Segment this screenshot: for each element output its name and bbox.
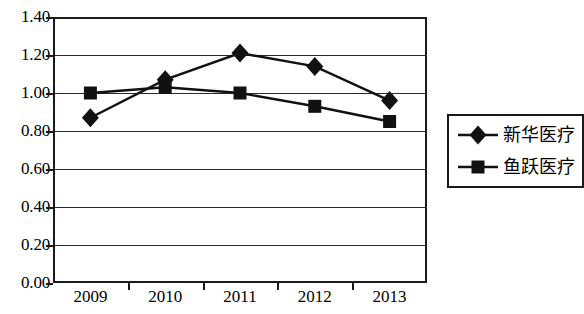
data-point-square <box>472 161 485 174</box>
y-tick-label: 1.40 <box>2 8 50 25</box>
data-point-square <box>383 115 396 128</box>
legend-item-1: 新华医疗 <box>457 120 575 150</box>
x-tick-label: 2012 <box>277 286 352 308</box>
data-point-diamond <box>381 91 398 110</box>
line-chart-figure: 0.000.200.400.600.801.001.201.40 2009201… <box>0 0 584 314</box>
x-tick-label: 2013 <box>352 286 427 308</box>
legend-label: 鱼跃医疗 <box>499 157 575 177</box>
data-point-diamond <box>232 44 249 63</box>
y-tick-label: 0.40 <box>2 198 50 215</box>
x-tick-label: 2011 <box>203 286 278 308</box>
data-point-square <box>308 100 321 113</box>
y-axis: 0.000.200.400.600.801.001.201.40 <box>0 0 50 314</box>
y-tick-mark <box>46 207 53 209</box>
data-point-diamond <box>82 108 99 127</box>
legend-item-2: 鱼跃医疗 <box>457 152 575 182</box>
series-2 <box>84 81 396 128</box>
data-point-square <box>84 87 97 100</box>
data-point-diamond <box>306 57 323 76</box>
y-tick-mark <box>46 283 53 285</box>
series-layer <box>53 17 427 283</box>
data-point-square <box>234 87 247 100</box>
x-tick-label: 2010 <box>128 286 203 308</box>
series-line <box>90 53 389 118</box>
y-tick-mark <box>46 93 53 95</box>
x-tick-label: 2009 <box>53 286 128 308</box>
data-point-diamond <box>470 126 487 145</box>
y-tick-mark <box>46 17 53 19</box>
y-tick-mark <box>46 55 53 57</box>
y-tick-label: 0.20 <box>2 236 50 253</box>
legend-square-marker-icon <box>457 155 499 179</box>
legend-diamond-marker-icon <box>457 123 499 147</box>
y-tick-label: 0.80 <box>2 122 50 139</box>
legend: 新华医疗鱼跃医疗 <box>447 114 584 188</box>
data-point-square <box>159 81 172 94</box>
y-tick-label: 0.00 <box>2 274 50 291</box>
y-tick-mark <box>46 169 53 171</box>
x-axis: 20092010201120122013 <box>53 286 427 312</box>
y-tick-mark <box>46 245 53 247</box>
y-tick-label: 1.20 <box>2 46 50 63</box>
legend-label: 新华医疗 <box>499 125 575 145</box>
y-tick-mark <box>46 131 53 133</box>
y-tick-label: 1.00 <box>2 84 50 101</box>
y-tick-label: 0.60 <box>2 160 50 177</box>
